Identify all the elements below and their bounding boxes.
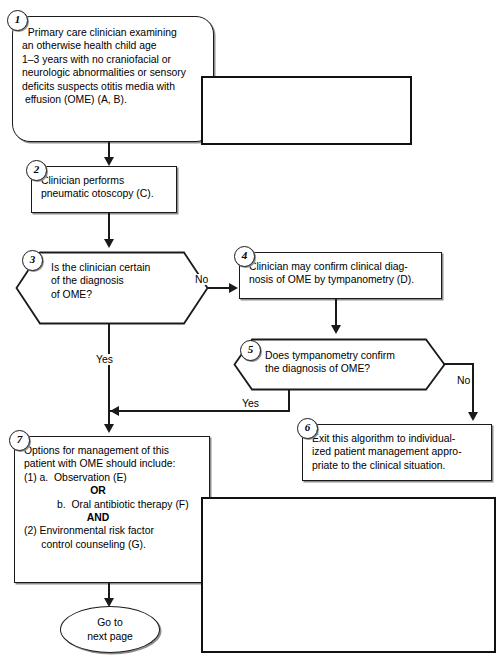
- edge-n5-no-v: [472, 363, 474, 419]
- node-7-number: 7: [9, 430, 30, 451]
- edge-n5-n6-arrowhead: [468, 412, 478, 421]
- attention-callout-box: [201, 497, 496, 653]
- edge-label-n3-no: No: [193, 274, 210, 285]
- node-1-text: Primary care clinician examiningan other…: [22, 26, 208, 106]
- edge-n4-n5-arrowhead: [331, 325, 341, 334]
- node-4-number: 4: [234, 246, 255, 267]
- terminal-go-to-next-page[interactable]: Go tonext page: [60, 606, 160, 653]
- node-2-number: 2: [26, 160, 47, 181]
- edge-n2-n3-arrowhead: [104, 239, 114, 248]
- edge-n3-n4-arrowhead: [229, 283, 238, 293]
- note-callout-box: [201, 76, 412, 145]
- node-6-number: 6: [297, 418, 318, 439]
- node-3-number: 3: [22, 250, 43, 271]
- edge-n5-no-h: [443, 363, 474, 365]
- node-5-text: Does tympanometry confirmthe diagnosis o…: [265, 349, 435, 376]
- node-3-text: Is the clinician certainof the diagnosis…: [51, 261, 186, 301]
- edge-label-n5-yes: Yes: [240, 398, 261, 409]
- edge-n5-yes-v: [288, 390, 290, 412]
- flowchart-canvas: 1 Primary care clinician examiningan oth…: [0, 0, 499, 663]
- edge-n5-yes-h: [110, 410, 290, 412]
- node-5-number: 5: [240, 340, 261, 361]
- node-2-text: Clinician performspneumatic otoscopy (C)…: [41, 174, 173, 201]
- edge-n1-n2-arrowhead: [104, 157, 114, 166]
- node-4-text: Clinician may confirm clinical diag-nosi…: [249, 260, 439, 287]
- node-7-text: Options for management of thispatient wi…: [24, 444, 208, 551]
- edge-n3-n7-arrowhead: [104, 424, 114, 433]
- node-6-text: Exit this algorithm to individual-ized p…: [312, 432, 490, 472]
- edge-n5-yes-arrowhead: [110, 406, 119, 416]
- node-1-number: 1: [7, 10, 28, 31]
- edge-label-n3-yes: Yes: [94, 354, 115, 365]
- edge-label-n5-no: No: [455, 375, 472, 386]
